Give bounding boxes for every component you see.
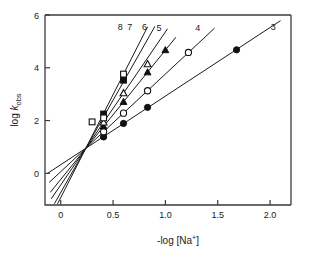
data-point-filled-circle-series-3 (233, 47, 239, 53)
x-tick-label-2.0: 2.0 (264, 210, 277, 220)
x-tick-label-0.5: 0.5 (107, 210, 120, 220)
x-tick-label-0: 0 (58, 210, 63, 220)
series-label-7: 7 (127, 22, 132, 32)
y-tick-label-2: 2 (34, 116, 39, 126)
data-point-open-circle-series-4 (101, 129, 107, 135)
data-point-filled-square-series-7 (121, 77, 127, 83)
y-tick-label-0: 0 (34, 169, 39, 179)
data-point-filled-circle-series-3 (120, 120, 126, 126)
data-point-open-circle-series-4 (120, 110, 126, 116)
data-point-filled-circle-series-3 (144, 104, 150, 110)
data-point-open-circle-series-4 (185, 49, 191, 55)
series-line-6 (51, 29, 167, 199)
series-line-3 (47, 21, 280, 174)
series-markers-group (89, 47, 239, 140)
data-point-open-circle-series-4 (144, 88, 150, 94)
series-label-6: 6 (142, 22, 147, 32)
series-label-8: 8 (118, 22, 123, 32)
y-tick-label-4: 4 (34, 63, 39, 73)
data-point-open-square-series-8 (101, 115, 107, 121)
series-label-5: 5 (157, 23, 162, 33)
data-point-open-square-series-8 (121, 71, 127, 77)
x-axis-title: -log [Na+] (157, 234, 199, 246)
tick-labels-group: 00.51.01.52.00246 (34, 11, 276, 221)
chart-figure: 00.51.01.52.00246 345678 -log [Na+] log … (0, 0, 310, 254)
series-labels-group: 345678 (118, 22, 276, 34)
x-tick-label-1.0: 1.0 (159, 210, 172, 220)
series-label-4: 4 (195, 23, 200, 33)
y-axis-title: log kobs (9, 93, 23, 126)
y-tick-label-6: 6 (34, 11, 39, 21)
axes-group (45, 15, 291, 205)
data-point-open-square-series-8 (89, 119, 95, 125)
series-label-3: 3 (271, 22, 276, 32)
chart-canvas: 00.51.01.52.00246 345678 -log [Na+] log … (0, 0, 310, 254)
series-line-5 (50, 37, 176, 192)
series-lines-group (47, 21, 280, 204)
x-tick-label-1.5: 1.5 (211, 210, 224, 220)
